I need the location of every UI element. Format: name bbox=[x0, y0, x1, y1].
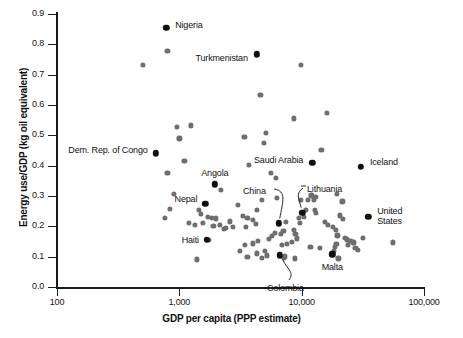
data-point bbox=[356, 247, 361, 252]
data-point bbox=[245, 254, 250, 259]
data-point-highlighted bbox=[329, 251, 335, 257]
y-axis-tick bbox=[48, 135, 56, 136]
data-point bbox=[335, 233, 340, 238]
data-point bbox=[294, 236, 299, 241]
data-point bbox=[246, 162, 251, 167]
x-axis-tick bbox=[424, 289, 425, 296]
data-point-highlighted bbox=[309, 159, 315, 165]
annotation-label-colombia: Colombia bbox=[267, 283, 304, 294]
data-point bbox=[311, 197, 316, 202]
data-point bbox=[228, 219, 233, 224]
data-point-highlighted bbox=[152, 150, 158, 156]
data-point bbox=[268, 170, 273, 175]
annotation-label-iceland: Iceland bbox=[370, 157, 398, 168]
data-point bbox=[195, 257, 200, 262]
data-point bbox=[340, 216, 345, 221]
data-point bbox=[167, 206, 172, 211]
data-point bbox=[317, 246, 322, 251]
x-axis-line bbox=[56, 287, 425, 289]
data-point bbox=[261, 141, 266, 146]
data-point bbox=[289, 240, 294, 245]
data-point-highlighted bbox=[212, 181, 218, 187]
data-point-highlighted bbox=[202, 200, 208, 206]
data-point bbox=[336, 256, 341, 261]
data-point bbox=[360, 235, 365, 240]
data-point bbox=[279, 242, 284, 247]
data-point-highlighted bbox=[163, 24, 169, 30]
annotation-label-china: China bbox=[243, 186, 266, 197]
data-point bbox=[200, 221, 205, 226]
y-axis-tick bbox=[48, 287, 56, 288]
data-point bbox=[297, 220, 302, 225]
data-point bbox=[308, 245, 313, 250]
data-point bbox=[162, 215, 167, 220]
data-point bbox=[283, 254, 288, 259]
data-point bbox=[299, 197, 304, 202]
leader-line bbox=[274, 189, 283, 218]
y-axis-tick bbox=[48, 226, 56, 227]
data-point bbox=[259, 197, 264, 202]
y-axis-tick bbox=[48, 14, 56, 15]
data-point bbox=[253, 221, 258, 226]
data-point bbox=[325, 111, 330, 116]
data-point-highlighted bbox=[254, 51, 260, 57]
annotation-label-lithuania: Lithuania bbox=[307, 184, 342, 195]
x-axis-tick bbox=[57, 289, 58, 296]
annotation-label-nepal: Nepal bbox=[175, 194, 198, 205]
data-point bbox=[340, 199, 345, 204]
annotation-label-malta: Malta bbox=[322, 262, 343, 273]
data-point bbox=[242, 135, 247, 140]
data-point bbox=[298, 62, 303, 67]
data-point bbox=[235, 203, 240, 208]
data-point bbox=[279, 231, 284, 236]
data-point-highlighted bbox=[276, 220, 282, 226]
data-point bbox=[243, 224, 248, 229]
annotation-label-dem-rep-of-congo: Dem. Rep. of Congo bbox=[68, 145, 147, 156]
y-axis-tick bbox=[48, 75, 56, 76]
data-point bbox=[238, 248, 243, 253]
y-axis-tick bbox=[48, 257, 56, 258]
annotation-label-saudi-arabia: Saudi Arabia bbox=[254, 155, 303, 166]
y-axis-title: Energy use/GDP (kg oil equivalent) bbox=[18, 28, 29, 268]
data-point-highlighted bbox=[358, 163, 364, 169]
data-point bbox=[165, 171, 170, 176]
data-point bbox=[214, 216, 219, 221]
data-point bbox=[219, 187, 224, 192]
data-point bbox=[211, 223, 216, 228]
data-point bbox=[292, 256, 297, 261]
data-point bbox=[245, 215, 250, 220]
x-axis-tick bbox=[179, 289, 180, 296]
data-point bbox=[284, 241, 289, 246]
data-point bbox=[189, 123, 194, 128]
data-point bbox=[391, 240, 396, 245]
data-point bbox=[258, 92, 263, 97]
leader-line bbox=[283, 259, 292, 280]
data-point bbox=[319, 147, 324, 152]
x-axis-title: GDP per capita (PPP estimate) bbox=[0, 313, 463, 324]
annotation-label-haiti: Haiti bbox=[182, 235, 199, 246]
data-point bbox=[140, 62, 145, 67]
data-point bbox=[230, 225, 235, 230]
data-point bbox=[198, 212, 203, 217]
data-point bbox=[250, 241, 255, 246]
data-point bbox=[186, 220, 191, 225]
x-axis-tick-label: 1,000 bbox=[149, 297, 209, 307]
data-point bbox=[177, 136, 182, 141]
scatter-chart-figure: 0.00.10.20.30.40.50.60.70.80.9 1001,0001… bbox=[0, 0, 463, 338]
y-axis-tick bbox=[48, 44, 56, 45]
annotation-label-united-states: UnitedStates bbox=[377, 206, 421, 227]
annotation-label-angola: Angola bbox=[201, 168, 228, 179]
annotation-label-turkmenistan: Turkmenistan bbox=[195, 53, 247, 64]
y-axis-tick bbox=[48, 166, 56, 167]
y-axis-tick-label: 0.9 bbox=[18, 9, 44, 18]
data-point bbox=[263, 131, 268, 136]
data-point bbox=[254, 208, 259, 213]
data-point bbox=[182, 158, 187, 163]
data-point bbox=[255, 238, 260, 243]
data-point bbox=[274, 175, 279, 180]
y-axis-tick-label: 0.0 bbox=[18, 282, 44, 291]
data-point bbox=[264, 253, 269, 258]
y-axis-line bbox=[56, 12, 58, 289]
x-axis-tick-label: 100 bbox=[27, 297, 87, 307]
data-point bbox=[174, 125, 179, 130]
